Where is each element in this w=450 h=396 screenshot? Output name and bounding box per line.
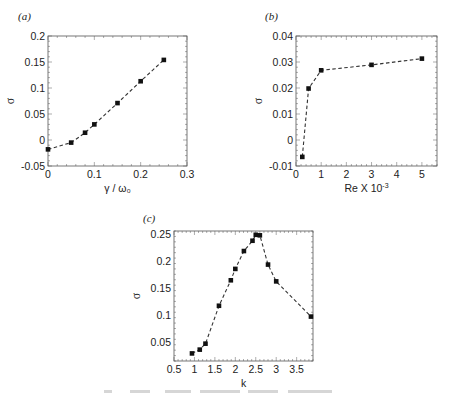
y-tick-label: 0.03 — [273, 56, 294, 68]
x-tick-label: 1.5 — [208, 363, 223, 375]
y-tick-label: 0.15 — [151, 282, 172, 294]
caption-fragment — [130, 390, 150, 393]
data-point — [300, 155, 305, 160]
data-point — [203, 341, 208, 346]
x-tick-label: 1 — [318, 168, 324, 180]
x-tick-label: 5 — [419, 168, 425, 180]
data-point — [92, 122, 97, 127]
data-point — [138, 79, 143, 84]
x-tick-label: 2.5 — [248, 363, 263, 375]
x-tick-label: 0.2 — [133, 168, 148, 180]
y-tick-labels: -0.0100.010.020.030.04 — [269, 30, 293, 172]
data-point — [190, 351, 195, 356]
y-tick-labels: 0.050.10.150.20.25 — [151, 228, 172, 348]
x-axis-label: Re X 10-3 — [344, 182, 388, 194]
x-tick-label: 0.3 — [180, 168, 195, 180]
data-point — [309, 314, 314, 319]
y-tick-label: 0.2 — [156, 255, 171, 267]
y-tick-label: 0.01 — [273, 108, 294, 120]
y-tick-label: -0.05 — [21, 160, 45, 172]
x-tick-labels: 00.10.20.3 — [45, 168, 194, 180]
x-tick-label: 2 — [343, 168, 349, 180]
data-point — [266, 262, 271, 267]
y-tick-label: 0.05 — [25, 108, 46, 120]
y-tick-labels: -0.0500.050.10.150.2 — [21, 30, 45, 172]
data-point — [250, 238, 255, 243]
data-point — [306, 86, 311, 91]
chart-panel-b: (b) -0.0100.010.020.030.04 012345 σ Re X… — [251, 10, 437, 194]
x-axis-label: γ / ω₀ — [104, 182, 131, 194]
x-tick-label: 4 — [394, 168, 400, 180]
x-tick-label: 0 — [293, 168, 299, 180]
panel-label-a: (a) — [18, 10, 31, 23]
x-tick-labels: 0.511.522.533.5 — [167, 363, 304, 375]
data-point — [162, 58, 167, 63]
x-tick-label: 0.1 — [87, 168, 102, 180]
data-markers — [300, 56, 424, 159]
series-line — [48, 60, 164, 149]
x-axis-label: k — [241, 377, 247, 389]
data-point — [46, 147, 51, 152]
x-axis-label-exponent: -3 — [382, 182, 388, 189]
series-line — [302, 59, 422, 157]
y-tick-label: 0.15 — [25, 56, 46, 68]
y-tick-label: 0.02 — [273, 82, 294, 94]
caption-fragment — [288, 390, 332, 393]
x-tick-label: 3 — [369, 168, 375, 180]
y-tick-label: 0 — [39, 134, 45, 146]
data-point — [274, 279, 279, 284]
data-point — [233, 267, 238, 272]
y-tick-label: 0.1 — [156, 309, 171, 321]
data-point — [217, 303, 222, 308]
x-tick-label: 1 — [192, 363, 198, 375]
y-tick-label: -0.01 — [269, 160, 293, 172]
truncated-caption — [104, 390, 332, 393]
data-point — [369, 63, 374, 68]
data-point — [83, 130, 88, 135]
caption-fragment — [200, 390, 240, 393]
x-tick-labels: 012345 — [293, 168, 425, 180]
data-point — [229, 278, 234, 283]
chart-panel-c: (c) 0.050.10.150.20.25 0.511.522.533.5 σ… — [129, 212, 313, 389]
y-tick-label: 0.05 — [151, 336, 172, 348]
chart-panel-a: (a) -0.0500.050.10.150.2 00.10.20.3 σ γ … — [3, 10, 194, 194]
plot-frame — [296, 36, 437, 166]
data-point — [253, 232, 258, 237]
y-tick-label: 0.2 — [30, 30, 45, 42]
y-axis-label: σ — [3, 97, 17, 104]
x-tick-label: 3.5 — [289, 363, 304, 375]
x-axis-label-base: Re X 10 — [344, 182, 382, 194]
y-axis-label: σ — [251, 97, 265, 104]
data-markers — [190, 232, 314, 355]
x-tick-label: 2 — [232, 363, 238, 375]
y-axis-label: σ — [129, 292, 143, 299]
data-markers — [46, 58, 166, 152]
data-point — [115, 101, 120, 106]
y-tick-label: 0.25 — [151, 228, 172, 240]
data-point — [242, 249, 247, 254]
x-tick-label: 0 — [45, 168, 51, 180]
caption-fragment — [248, 390, 278, 393]
caption-fragment — [165, 390, 191, 393]
data-point — [69, 140, 74, 145]
data-point — [258, 233, 263, 238]
x-tick-label: 0.5 — [167, 363, 182, 375]
series-line — [192, 235, 311, 354]
y-tick-label: 0 — [287, 134, 293, 146]
data-point — [319, 68, 324, 73]
data-point — [197, 347, 202, 352]
minor-ticks — [296, 36, 437, 166]
x-tick-label: 3 — [273, 363, 279, 375]
data-point — [420, 56, 425, 61]
panel-label-c: (c) — [143, 212, 156, 225]
figure: (a) -0.0500.050.10.150.2 00.10.20.3 σ γ … — [0, 0, 450, 396]
caption-fragment — [104, 390, 112, 393]
y-tick-label: 0.1 — [30, 82, 45, 94]
y-tick-label: 0.04 — [273, 30, 294, 42]
panel-label-b: (b) — [265, 10, 278, 23]
